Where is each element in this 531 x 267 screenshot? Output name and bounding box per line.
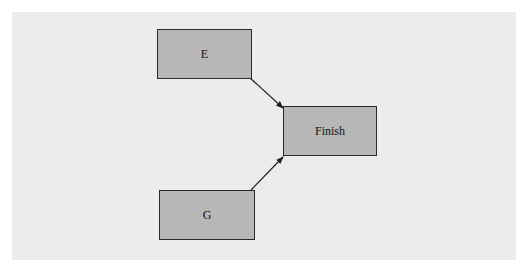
node-g-label: G: [203, 208, 212, 223]
node-e: E: [157, 29, 252, 79]
node-g: G: [159, 190, 255, 240]
node-finish-label: Finish: [315, 124, 345, 139]
node-e-label: E: [201, 47, 208, 62]
diagram-canvas: [12, 12, 516, 260]
node-finish: Finish: [283, 106, 377, 156]
